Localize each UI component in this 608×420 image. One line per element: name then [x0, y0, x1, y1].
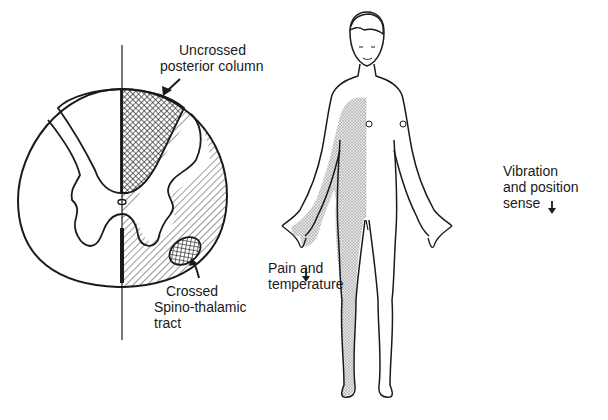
nipple-right: [400, 121, 406, 127]
label-pain: Pain and: [268, 260, 323, 276]
label-spinothalamic: Spino-thalamic: [154, 299, 247, 315]
label-crossed: Crossed: [166, 283, 218, 299]
label-tract: tract: [154, 315, 181, 331]
arrow-down-vibration-icon: [548, 208, 556, 214]
label-uncrossed: Uncrossed: [179, 42, 246, 58]
label-sense: sense: [503, 195, 540, 211]
label-temperature: temperature: [268, 276, 343, 292]
right-hand: [428, 226, 452, 247]
label-vibration: Vibration: [503, 163, 558, 179]
figure: Uncrossed posterior column Crossed Spino…: [0, 0, 608, 420]
nipple-left: [366, 121, 372, 127]
label-posterior-column: posterior column: [160, 58, 264, 74]
label-and-position: and position: [503, 179, 579, 195]
